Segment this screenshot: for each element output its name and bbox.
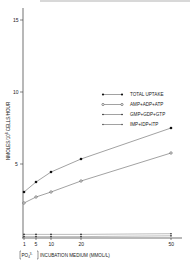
x-tick-label: 50	[169, 241, 175, 247]
series-amp-adp-atp	[23, 152, 172, 204]
y-axis-title: NMOLES/108 CELLS/HOUR	[5, 101, 11, 160]
series-imp-idp-itp	[23, 235, 171, 237]
svg-text:INCUBATION MEDIUM (MMOL/L): INCUBATION MEDIUM (MMOL/L)	[40, 253, 110, 258]
svg-text:IMP+IDP+ITP: IMP+IDP+ITP	[130, 122, 158, 127]
legend-item-total-uptake: TOTAL UPTAKE	[102, 92, 164, 97]
x-tick-label: 20	[79, 241, 85, 247]
y-tick-label: 15	[13, 17, 19, 23]
legend-item-imp-idp-itp: IMP+IDP+ITP	[102, 122, 158, 127]
y-tick-label: 5	[15, 161, 18, 167]
legend: TOTAL UPTAKE AMP+ADP+ATP GMP+GDP+GTP IMP…	[102, 92, 165, 127]
svg-text:AMP+ADP+ATP: AMP+ADP+ATP	[130, 102, 163, 107]
x-tick-label: 5	[35, 241, 38, 247]
line-chart: 15 10 5 NMOLES/108 CELLS/HOUR 1 5 10 20 …	[0, 0, 190, 264]
y-tick-label: 10	[13, 89, 19, 95]
svg-text:GMP+GDP+GTP: GMP+GDP+GTP	[130, 112, 165, 117]
series-gmp-gdp-gtp	[23, 233, 172, 235]
x-ticks: 1 5 10 20 50	[23, 238, 174, 247]
x-tick-label: 1	[23, 241, 26, 247]
x-tick-label: 10	[49, 241, 55, 247]
svg-text:TOTAL UPTAKE: TOTAL UPTAKE	[130, 92, 164, 97]
legend-item-gmp-gdp-gtp: GMP+GDP+GTP	[102, 112, 165, 117]
legend-item-amp-adp-atp: AMP+ADP+ATP	[102, 102, 163, 107]
x-axis-title: PO43- INCUBATION MEDIUM (MMOL/L)	[20, 251, 110, 259]
y-ticks: 15 10 5	[13, 17, 23, 167]
series-total-uptake	[23, 127, 173, 194]
svg-text:PO43-: PO43-	[22, 252, 33, 260]
